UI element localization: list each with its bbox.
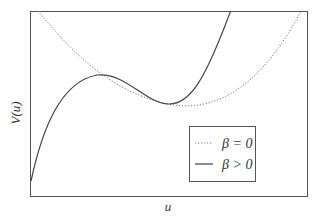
x-axis-label: u	[165, 199, 172, 214]
y-axis-label: V(u)	[8, 101, 23, 124]
legend-label-beta-zero: β = 0	[221, 136, 252, 151]
legend-label-beta-positive: β > 0	[221, 157, 252, 172]
series-beta-zero-curve	[38, 11, 301, 106]
chart: u V(u) β = 0 β > 0	[0, 0, 322, 217]
legend-box	[190, 127, 256, 182]
legend: β = 0 β > 0	[190, 127, 256, 182]
